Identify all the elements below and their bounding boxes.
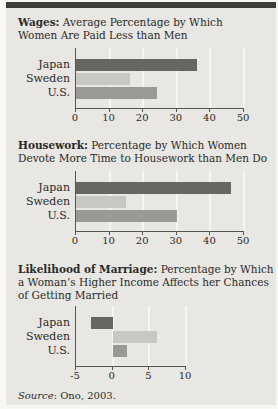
title-line: Housework: Percentage by Which Women bbox=[18, 139, 276, 152]
tick-label: 50 bbox=[237, 235, 250, 246]
marriage-bar-chart: JapanSwedenU.S. -50510 bbox=[18, 306, 276, 382]
tick-label: 50 bbox=[237, 112, 250, 123]
wages-bar-chart: JapanSwedenU.S. 01020304050 bbox=[18, 48, 276, 124]
gridline bbox=[243, 48, 245, 108]
x-axis-ticks: 01020304050 bbox=[75, 109, 243, 124]
bar-japan bbox=[91, 317, 113, 329]
tick-label: 30 bbox=[169, 235, 182, 246]
title-line: Women Are Paid Less than Men bbox=[18, 29, 276, 42]
tick-label: 5 bbox=[145, 370, 151, 381]
figure-top-rule bbox=[6, 2, 276, 8]
plot-area: -50510 bbox=[75, 306, 186, 382]
tick-label: 0 bbox=[72, 235, 78, 246]
title-rest: Percentage by Which bbox=[157, 263, 273, 275]
plot bbox=[75, 48, 244, 109]
marriage-section: Likelihood of Marriage: Percentage by Wh… bbox=[18, 263, 276, 382]
category-label-sweden: Sweden bbox=[18, 72, 75, 86]
category-label-sweden: Sweden bbox=[18, 330, 75, 344]
bar-us bbox=[76, 87, 157, 99]
plot bbox=[75, 171, 244, 232]
housework-bar-chart: JapanSwedenU.S. 01020304050 bbox=[18, 171, 276, 247]
bar-us bbox=[76, 210, 177, 222]
bar-sweden bbox=[76, 73, 130, 85]
title-lead: Likelihood of Marriage: bbox=[18, 263, 157, 275]
tick-label: 20 bbox=[136, 235, 149, 246]
plot bbox=[75, 306, 186, 367]
title-rest: Average Percentage by Which bbox=[60, 16, 223, 28]
tick-label: 0 bbox=[72, 112, 78, 123]
plot-area: 01020304050 bbox=[75, 171, 244, 247]
gridline bbox=[176, 48, 178, 108]
title-line: Wages: Average Percentage by Which bbox=[18, 16, 276, 29]
category-labels: JapanSwedenU.S. bbox=[18, 306, 75, 382]
category-labels: JapanSwedenU.S. bbox=[18, 48, 75, 124]
wages-title: Wages: Average Percentage by Which Women… bbox=[18, 16, 276, 42]
plot-area: 01020304050 bbox=[75, 48, 244, 124]
gridline bbox=[243, 171, 245, 231]
figure-card: Wages: Average Percentage by Which Women… bbox=[6, 2, 276, 405]
gridline bbox=[142, 171, 144, 231]
category-label-japan: Japan bbox=[18, 181, 75, 195]
category-label-sweden: Sweden bbox=[18, 195, 75, 209]
wages-section: Wages: Average Percentage by Which Women… bbox=[18, 16, 276, 124]
title-line: Devote More Time to Housework than Men D… bbox=[18, 152, 276, 165]
gridline bbox=[185, 306, 187, 366]
category-label-us: U.S. bbox=[18, 86, 75, 100]
tick-label: 20 bbox=[136, 112, 149, 123]
category-label-us: U.S. bbox=[18, 344, 75, 358]
marriage-title: Likelihood of Marriage: Percentage by Wh… bbox=[18, 263, 276, 302]
category-label-us: U.S. bbox=[18, 209, 75, 223]
x-axis-ticks: -50510 bbox=[75, 367, 185, 382]
bar-us bbox=[113, 345, 128, 357]
gridline bbox=[209, 48, 211, 108]
bar-sweden bbox=[113, 331, 157, 343]
title-line: a Woman’s Higher Income Affects her Chan… bbox=[18, 276, 276, 289]
housework-section: Housework: Percentage by Which Women Dev… bbox=[18, 139, 276, 247]
tick-label: 0 bbox=[108, 370, 114, 381]
category-labels: JapanSwedenU.S. bbox=[18, 171, 75, 247]
gridline bbox=[209, 171, 211, 231]
gridline bbox=[176, 171, 178, 231]
bar-sweden bbox=[76, 196, 126, 208]
category-label-japan: Japan bbox=[18, 58, 75, 72]
title-lead: Housework: bbox=[18, 139, 88, 151]
tick-label: -5 bbox=[70, 370, 80, 381]
housework-title: Housework: Percentage by Which Women Dev… bbox=[18, 139, 276, 165]
source-note: Source: Ono, 2003. bbox=[18, 390, 276, 401]
title-lead: Wages: bbox=[18, 16, 60, 28]
tick-label: 10 bbox=[102, 112, 115, 123]
title-rest: Percentage by Which Women bbox=[88, 139, 247, 151]
title-line: of Getting Married bbox=[18, 289, 276, 302]
title-line: Likelihood of Marriage: Percentage by Wh… bbox=[18, 263, 276, 276]
tick-label: 40 bbox=[203, 235, 216, 246]
tick-label: 30 bbox=[169, 112, 182, 123]
bar-japan bbox=[76, 182, 231, 194]
tick-label: 10 bbox=[102, 235, 115, 246]
tick-label: 40 bbox=[203, 112, 216, 123]
tick-label: 10 bbox=[179, 370, 192, 381]
category-label-japan: Japan bbox=[18, 316, 75, 330]
x-axis-ticks: 01020304050 bbox=[75, 232, 243, 247]
bar-japan bbox=[76, 59, 197, 71]
gridline bbox=[142, 48, 144, 108]
source-text: : Ono, 2003. bbox=[54, 390, 116, 401]
source-label: Source bbox=[18, 390, 54, 401]
